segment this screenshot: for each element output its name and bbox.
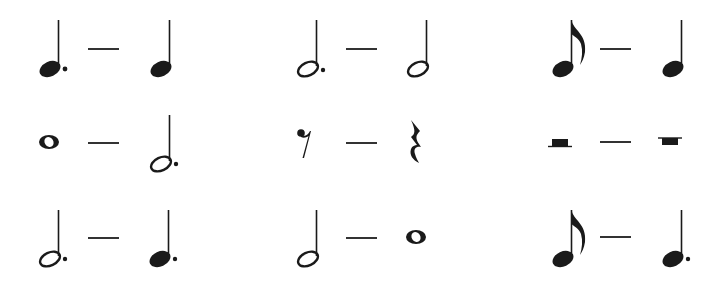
quarter-rest-icon — [407, 119, 427, 165]
pair-label-r2c1: whole — dotted half — [0, 0, 1, 1]
diagram-title: Note and rest value equivalences — [0, 0, 1, 1]
pair-label-r1c2: dotted half — half — [0, 0, 1, 1]
pair-label-r3c2: half — whole — [0, 0, 1, 1]
equivalence-dash — [600, 141, 631, 143]
whole-rest-icon — [657, 136, 683, 148]
equivalence-dash — [600, 48, 631, 50]
whole-note-icon — [404, 227, 428, 247]
equivalence-dash — [88, 48, 119, 50]
eighth-note-icon — [551, 18, 591, 80]
quarter-note-icon — [661, 18, 691, 80]
dotted-quarter-note-icon — [148, 208, 184, 270]
pair-label-r2c2: eighth rest — quarter rest — [0, 0, 1, 1]
equivalence-dash — [88, 142, 119, 144]
pair-label-r3c1: dotted half — dotted quarter — [0, 0, 1, 1]
equivalence-dash — [88, 237, 119, 239]
equivalence-dash — [346, 237, 377, 239]
dotted-half-note-icon — [38, 208, 74, 270]
whole-note-icon — [37, 132, 61, 152]
half-rest-icon — [547, 137, 573, 149]
equivalence-dash — [600, 236, 631, 238]
dotted-quarter-note-icon — [661, 208, 697, 270]
half-note-icon — [296, 208, 326, 270]
dotted-half-note-icon — [149, 113, 185, 175]
pair-label-r3c3: eighth — dotted quarter — [0, 0, 1, 1]
eighth-note-icon — [551, 208, 591, 270]
pair-label-r1c1: dotted quarter — quarter — [0, 0, 1, 1]
equivalence-dash — [346, 48, 377, 50]
pair-label-r2c3: half rest — whole rest — [0, 0, 1, 1]
equivalence-dash — [346, 142, 377, 144]
pair-label-r1c3: eighth — quarter — [0, 0, 1, 1]
quarter-note-icon — [149, 18, 179, 80]
eighth-rest-icon — [296, 128, 316, 160]
dotted-half-note-icon — [296, 18, 332, 80]
dotted-quarter-note-icon — [38, 18, 74, 80]
half-note-icon — [406, 18, 436, 80]
